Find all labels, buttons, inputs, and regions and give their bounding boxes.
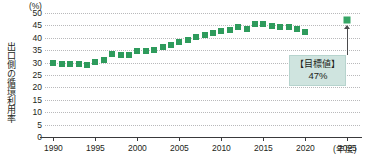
data-point <box>269 23 275 29</box>
data-point <box>277 24 283 30</box>
data-point <box>59 61 65 67</box>
x-axis-tick-label: 2020 <box>296 143 315 153</box>
x-axis-tick <box>221 137 222 141</box>
callout-title: 【目標値】 <box>295 58 340 70</box>
x-axis-tick-label: 2005 <box>170 143 189 153</box>
x-axis-tick <box>179 137 180 141</box>
x-axis-tick <box>305 137 306 141</box>
y-axis-tick-label: 30 <box>33 58 42 68</box>
x-axis-tick <box>53 137 54 141</box>
data-point <box>176 39 182 45</box>
callout-value: 47% <box>295 70 340 82</box>
gridline <box>45 25 360 26</box>
data-point <box>210 30 216 36</box>
gridline <box>45 50 360 51</box>
gridline <box>45 125 360 126</box>
gridline <box>45 100 360 101</box>
x-axis-tick-label: 2000 <box>128 143 147 153</box>
data-point <box>50 60 56 66</box>
x-axis-tick-label: 1995 <box>86 143 105 153</box>
data-point <box>244 26 250 32</box>
data-point <box>218 28 224 34</box>
chart-container: (%) 出口側の循環利用率 05101520253035404550199019… <box>0 0 371 163</box>
y-axis-tick-label: 10 <box>33 107 42 117</box>
data-point <box>302 29 308 35</box>
y-axis-tick-label: 20 <box>33 82 42 92</box>
data-point <box>118 52 124 58</box>
x-axis-tick <box>347 137 348 141</box>
y-axis-tick-label: 35 <box>33 45 42 55</box>
data-point <box>260 21 266 27</box>
gridline <box>45 112 360 113</box>
data-point <box>101 57 107 63</box>
data-point <box>84 62 90 68</box>
x-axis-tick-label: 2010 <box>212 143 231 153</box>
x-axis-tick <box>263 137 264 141</box>
y-axis-tick-label: 5 <box>37 120 42 130</box>
y-axis-title: 出口側の循環利用率 <box>1 26 16 138</box>
y-axis-tick-label: 45 <box>33 20 42 30</box>
data-point <box>252 21 258 27</box>
data-point <box>151 47 157 53</box>
data-point <box>185 37 191 43</box>
data-point <box>143 48 149 54</box>
data-point <box>134 48 140 54</box>
data-point <box>160 44 166 50</box>
data-point <box>67 61 73 67</box>
data-point <box>126 52 132 58</box>
callout-arrow-head-icon <box>344 25 350 29</box>
y-axis-tick-label: 50 <box>33 8 42 18</box>
data-point <box>227 27 233 33</box>
x-axis-tick-label: 2015 <box>254 143 273 153</box>
x-axis-tick <box>95 137 96 141</box>
x-axis-tick <box>137 137 138 141</box>
x-axis-line <box>40 137 362 138</box>
x-axis-unit-label: (年度) <box>333 142 357 154</box>
data-point <box>294 26 300 32</box>
data-point <box>76 61 82 67</box>
y-axis-tick-label: 25 <box>33 70 42 80</box>
target-value-callout: 【目標値】 47% <box>289 55 346 86</box>
callout-connector-line <box>347 26 348 55</box>
gridline <box>45 13 360 14</box>
data-point <box>235 24 241 30</box>
data-point <box>202 32 208 38</box>
y-axis-tick-label: 15 <box>33 95 42 105</box>
x-axis-tick-label: 1990 <box>44 143 63 153</box>
gridline <box>45 87 360 88</box>
data-point <box>92 59 98 65</box>
data-point <box>109 51 115 57</box>
data-point <box>193 34 199 40</box>
target-data-point <box>344 17 351 24</box>
y-axis-tick-label: 40 <box>33 33 42 43</box>
data-point <box>286 24 292 30</box>
data-point <box>168 42 174 48</box>
